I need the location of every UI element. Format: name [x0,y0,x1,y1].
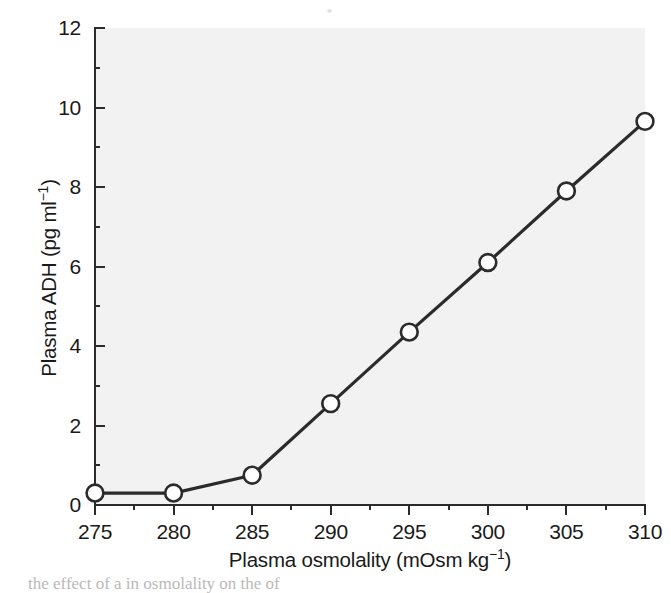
figure-caption-clipped: the effect of a in osmolality on the of [28,574,648,593]
data-point-marker [479,254,496,271]
data-point-marker [244,467,261,484]
data-point-marker [401,324,418,341]
data-point-marker [322,395,339,412]
series-markers [87,113,654,501]
data-point-marker [165,485,182,502]
data-point-marker [87,485,104,502]
data-point-marker [558,183,575,200]
series-line [95,121,645,493]
data-point-marker [637,113,654,130]
